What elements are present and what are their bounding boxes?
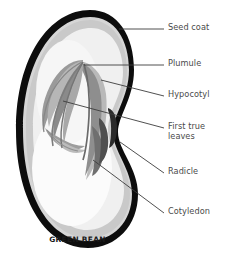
- label-cotyledon: Cotyledon: [168, 206, 210, 216]
- diagram-caption: GREEN BEAN: [0, 235, 155, 244]
- label-radicle: Radicle: [168, 166, 198, 176]
- seed-anatomy-diagram: Seed coat Plumule Hypocotyl First true l…: [0, 0, 230, 257]
- label-seed-coat: Seed coat: [168, 22, 209, 32]
- label-first-true-leaves: First true leaves: [168, 121, 205, 141]
- label-hypocotyl: Hypocotyl: [168, 89, 210, 99]
- label-plumule: Plumule: [168, 58, 201, 68]
